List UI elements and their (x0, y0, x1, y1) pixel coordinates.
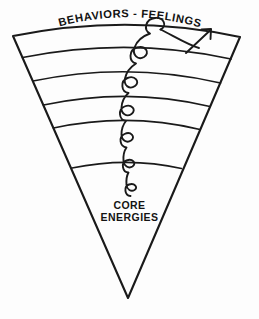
diagram-canvas: BEHAVIORS - FEELINGS CORE ENERGIES (0, 0, 259, 319)
core-energies-cone-diagram: BEHAVIORS - FEELINGS (0, 0, 259, 319)
band-line-4 (54, 120, 201, 129)
band-line-1 (23, 47, 232, 59)
energy-arrow-shaft (186, 30, 211, 54)
energy-spiral-path (120, 18, 164, 196)
